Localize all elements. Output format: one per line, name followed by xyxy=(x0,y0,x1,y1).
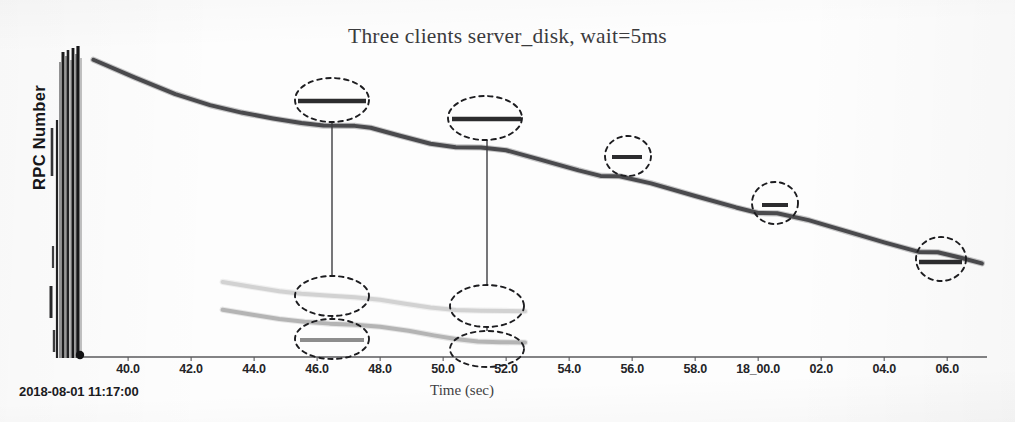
x-tick-label-6: 52.0 xyxy=(494,362,518,376)
y-axis-title: RPC Number xyxy=(30,63,49,213)
x-tick-label-1: 42.0 xyxy=(179,362,203,376)
x-tick-label-9: 58.0 xyxy=(683,362,707,376)
x-tick-label-8: 56.0 xyxy=(620,362,644,376)
x-tick-label-5: 50.0 xyxy=(431,362,455,376)
x-axis-title: Time (sec) xyxy=(430,382,494,399)
x-tick-label-10: 18_00.0 xyxy=(736,362,780,376)
x-tick-label-11: 02.0 xyxy=(809,362,833,376)
x-tick-label-7: 54.0 xyxy=(557,362,581,376)
x-tick-label-4: 48.0 xyxy=(368,362,392,376)
x-tick-label-13: 06.0 xyxy=(935,362,959,376)
axis-label-layer: RPC Number Time (sec) 2018-08-01 11:17:0… xyxy=(0,0,1015,422)
capture-timestamp: 2018-08-01 11:17:00 xyxy=(19,384,139,399)
x-tick-label-3: 46.0 xyxy=(305,362,329,376)
chart-screenshot: Three clients server_disk, wait=5ms RPC … xyxy=(0,0,1015,422)
x-tick-label-0: 40.0 xyxy=(116,362,140,376)
x-tick-label-12: 04.0 xyxy=(872,362,896,376)
x-tick-label-2: 44.0 xyxy=(242,362,266,376)
